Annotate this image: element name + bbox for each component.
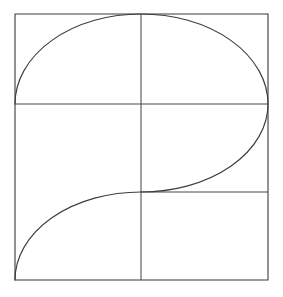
geometric-figure-canvas xyxy=(0,0,283,297)
